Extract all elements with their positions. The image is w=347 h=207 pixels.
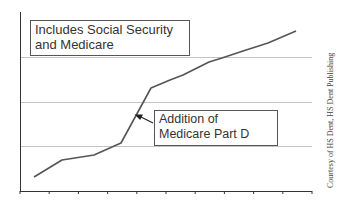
credit-text: Courtesy of HS Dent, HS Dent Publishing xyxy=(326,53,335,188)
annotation-arrow xyxy=(136,115,153,123)
annotation-line-2: Medicare Part D xyxy=(159,127,273,142)
annotation-line-1: Addition of xyxy=(159,112,273,127)
annotation-box-social-security: Includes Social Security and Medicare xyxy=(30,20,190,56)
annotation-box-medicare-part-d: Addition of Medicare Part D xyxy=(154,110,278,146)
